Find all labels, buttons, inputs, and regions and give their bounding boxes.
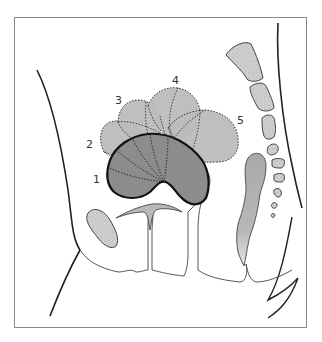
label-3: 3 [115,94,122,107]
pelvis-diagram: 1 2 3 4 5 [0,0,322,342]
label-4: 4 [172,74,179,87]
label-2: 2 [86,138,93,151]
label-1: 1 [93,173,100,186]
label-5: 5 [237,114,244,127]
